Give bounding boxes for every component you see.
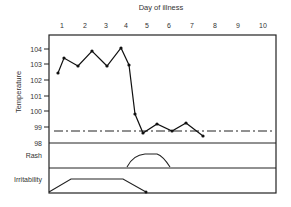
svg-text:6: 6 [167,22,171,29]
x-tick-labels: 1 2 3 4 5 6 7 8 9 10 [60,22,267,29]
irritability-label: Irritability [14,176,43,184]
svg-text:103: 103 [30,61,42,68]
svg-text:7: 7 [190,22,194,29]
chart-title: Day of illness [139,3,184,12]
svg-text:8: 8 [213,22,217,29]
plot-frame [49,35,276,193]
irritability-end-point [145,191,148,194]
svg-text:10: 10 [259,22,267,29]
y-ticks [44,49,49,127]
svg-text:101: 101 [30,93,42,100]
chart: Day of illness 1 2 3 4 5 6 7 8 9 10 104 … [0,0,291,207]
irritability-curve [49,179,146,192]
svg-text:9: 9 [236,22,240,29]
svg-text:102: 102 [30,77,42,84]
temperature-points [56,46,204,137]
y-tick-labels: 104 103 102 101 100 99 98 [30,46,42,147]
svg-text:104: 104 [30,46,42,53]
rash-label: Rash [26,152,42,159]
svg-text:2: 2 [83,22,87,29]
svg-text:4: 4 [124,22,128,29]
svg-text:5: 5 [145,22,149,29]
svg-text:100: 100 [30,108,42,115]
svg-text:98: 98 [34,140,42,147]
y-axis-label: Temperature [14,71,23,113]
rash-curve [127,154,170,167]
svg-text:99: 99 [34,124,42,131]
svg-text:1: 1 [60,22,64,29]
temperature-line [58,48,203,136]
svg-text:3: 3 [104,22,108,29]
